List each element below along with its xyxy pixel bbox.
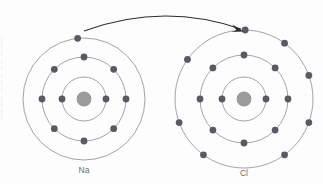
electron-chlorine-shell-3-7 [176, 119, 183, 126]
atom-sodium: Na [23, 35, 145, 175]
electron-sodium-shell-2-6 [51, 125, 58, 132]
electron-chlorine-shell-3-4 [305, 119, 312, 126]
electron-chlorine-shell-3-6 [200, 151, 207, 158]
electron-transfer-diagram: NaCl [0, 0, 323, 184]
electron-sodium-shell-2-4 [110, 125, 117, 132]
nucleus-chlorine [237, 92, 252, 107]
bohr-model-figure: | | | | | | | | | | | | NaCl [0, 0, 323, 184]
electron-chlorine-shell-3-8 [184, 56, 191, 63]
electron-transfer-arrow [84, 16, 244, 32]
electron-chlorine-shell-1-1 [219, 96, 226, 103]
electron-chlorine-shell-2-8 [209, 64, 216, 71]
electron-sodium-shell-3-1 [74, 35, 81, 42]
electron-sodium-shell-2-5 [81, 138, 88, 145]
electron-chlorine-shell-2-3 [285, 96, 292, 103]
electron-sodium-shell-2-1 [81, 54, 88, 61]
electron-chlorine-shell-3-3 [305, 72, 312, 79]
nucleus-sodium [77, 92, 92, 107]
electron-chlorine-shell-2-1 [241, 52, 248, 59]
electron-chlorine-shell-3-2 [281, 40, 288, 47]
electron-chlorine-shell-2-2 [272, 64, 279, 71]
electron-chlorine-shell-2-6 [209, 127, 216, 134]
electron-sodium-shell-1-1 [59, 96, 66, 103]
electron-sodium-shell-1-2 [103, 96, 110, 103]
electron-chlorine-shell-2-7 [197, 96, 204, 103]
electron-sodium-shell-2-2 [110, 66, 117, 73]
electron-chlorine-shell-2-4 [272, 127, 279, 134]
electron-sodium-shell-2-8 [51, 66, 58, 73]
electron-sodium-shell-2-3 [123, 96, 130, 103]
electron-chlorine-shell-3-5 [281, 151, 288, 158]
electron-sodium-shell-2-7 [39, 96, 46, 103]
atom-label-sodium: Na [79, 165, 90, 175]
arrow-shaft [84, 16, 241, 31]
electron-chlorine-shell-1-2 [263, 96, 270, 103]
atom-chlorine: Cl [175, 27, 313, 178]
electron-chlorine-shell-2-5 [241, 140, 248, 147]
electron-chlorine-shell-3-1 [242, 27, 249, 34]
atom-label-chlorine: Cl [240, 168, 248, 178]
